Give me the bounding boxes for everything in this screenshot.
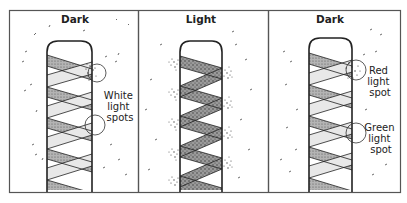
panel-middle: Light (145, 13, 252, 200)
three-panel-diagram: Dark (0, 0, 407, 203)
panel-title: Dark (316, 13, 345, 25)
annotation-white-light-spots: White light spots (104, 90, 136, 123)
helix-tube (47, 41, 92, 200)
annotation-red-light-spot: Red light spot (367, 65, 392, 98)
panel-title: Dark (61, 13, 90, 25)
panel-left: Dark (22, 13, 136, 200)
panel-right: Dark (280, 13, 398, 200)
helix-tube (180, 41, 222, 200)
helix-tube (309, 38, 352, 200)
annotation-green-light-spot: Green light spot (364, 122, 397, 155)
panel-title: Light (186, 13, 216, 25)
